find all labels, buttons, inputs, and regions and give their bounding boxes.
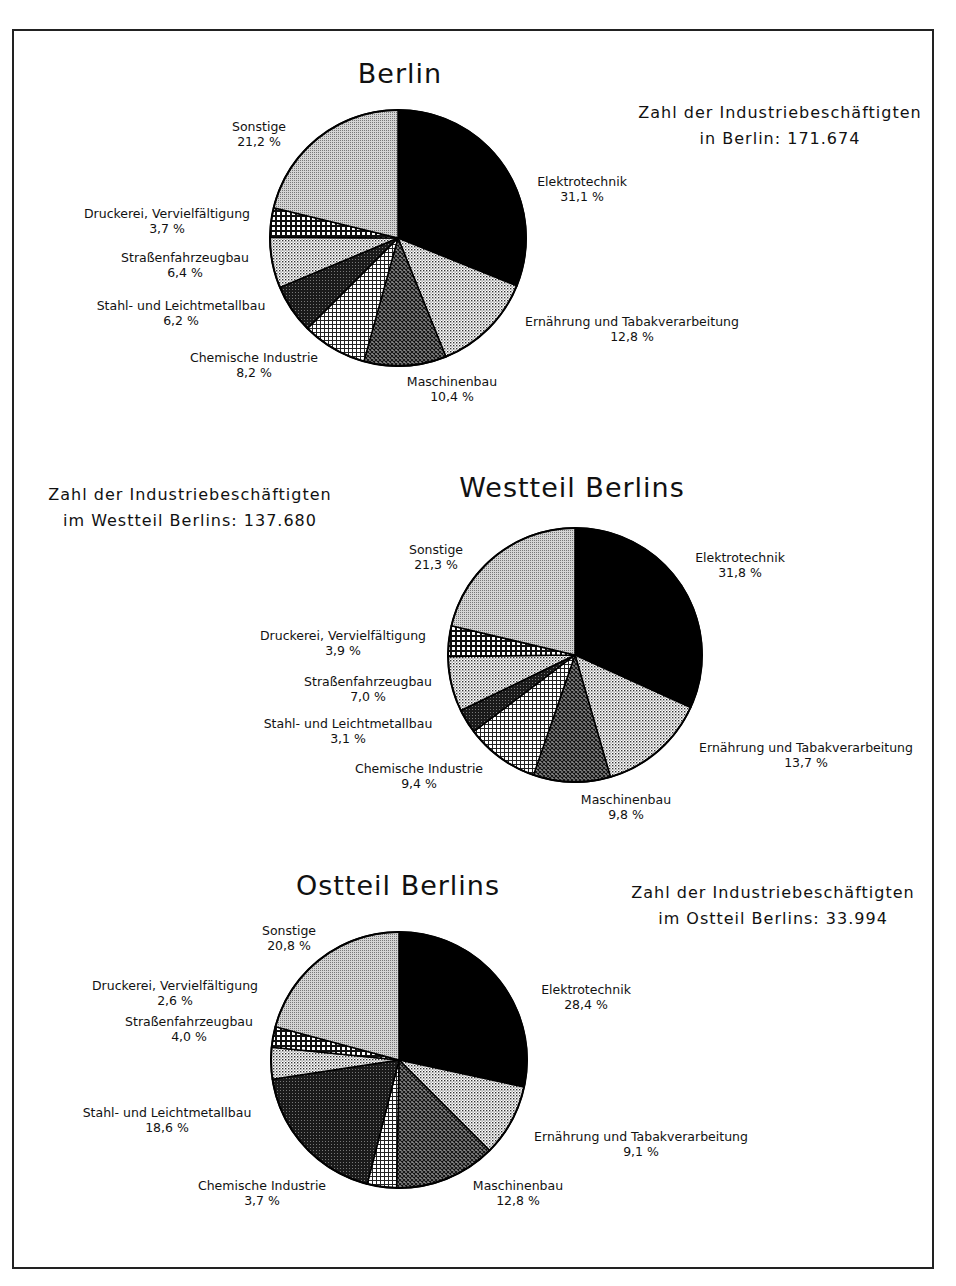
slice-label-ernaehrung-und-tabakverarbeitung: Ernährung und Tabakverarbeitung9,1 % — [534, 1129, 748, 1159]
slice-label-name: Sonstige — [409, 542, 463, 557]
pie-berlin — [270, 110, 526, 366]
slice-label-name: Maschinenbau — [581, 792, 671, 807]
slice-label-sonstige: Sonstige21,2 % — [232, 119, 286, 149]
slice-label-druckerei-vervielfaeltigung: Druckerei, Vervielfältigung2,6 % — [92, 978, 258, 1008]
slice-label-name: Ernährung und Tabakverarbeitung — [534, 1129, 748, 1144]
employee-total-value: im Westteil Berlins: 137.680 — [48, 508, 331, 534]
slice-label-name: Chemische Industrie — [198, 1178, 326, 1193]
chart-title: Ostteil Berlins — [296, 870, 500, 901]
slice-label-value: 6,2 % — [97, 313, 266, 328]
slice-label-name: Chemische Industrie — [190, 350, 318, 365]
slice-label-value: 9,8 % — [581, 807, 671, 822]
slice-label-ernaehrung-und-tabakverarbeitung: Ernährung und Tabakverarbeitung13,7 % — [699, 740, 913, 770]
slice-label-value: 21,3 % — [409, 557, 463, 572]
slice-label-value: 4,0 % — [125, 1029, 253, 1044]
slice-label-value: 12,8 % — [473, 1193, 563, 1208]
pie-ostteil-berlins — [271, 932, 527, 1188]
slice-label-sonstige: Sonstige20,8 % — [262, 923, 316, 953]
employee-total-value: in Berlin: 171.674 — [638, 126, 921, 152]
slice-label-value: 7,0 % — [304, 689, 432, 704]
slice-label-value: 18,6 % — [83, 1120, 252, 1135]
slice-label-maschinenbau: Maschinenbau10,4 % — [407, 374, 497, 404]
employee-total-label: Zahl der Industriebeschäftigten — [48, 482, 331, 508]
slice-label-value: 8,2 % — [190, 365, 318, 380]
slice-label-name: Elektrotechnik — [537, 174, 627, 189]
employee-total: Zahl der Industriebeschäftigtenin Berlin… — [638, 100, 921, 152]
slice-label-name: Sonstige — [262, 923, 316, 938]
slice-label-value: 20,8 % — [262, 938, 316, 953]
slice-label-value: 3,9 % — [260, 643, 426, 658]
slice-label-name: Straßenfahrzeugbau — [121, 250, 249, 265]
slice-label-value: 3,7 % — [198, 1193, 326, 1208]
slice-label-value: 12,8 % — [525, 329, 739, 344]
slice-label-maschinenbau: Maschinenbau12,8 % — [473, 1178, 563, 1208]
chart-title: Berlin — [358, 58, 442, 89]
slice-label-name: Elektrotechnik — [541, 982, 631, 997]
employee-total-value: im Ostteil Berlins: 33.994 — [631, 906, 914, 932]
slice-label-name: Straßenfahrzeugbau — [125, 1014, 253, 1029]
slice-label-value: 6,4 % — [121, 265, 249, 280]
slice-label-strassenfahrzeugbau: Straßenfahrzeugbau4,0 % — [125, 1014, 253, 1044]
slice-label-value: 28,4 % — [541, 997, 631, 1012]
slice-label-name: Chemische Industrie — [355, 761, 483, 776]
slice-label-name: Straßenfahrzeugbau — [304, 674, 432, 689]
slice-label-stahl-und-leichtmetallbau: Stahl- und Leichtmetallbau3,1 % — [264, 716, 433, 746]
slice-label-value: 9,4 % — [355, 776, 483, 791]
slice-label-name: Stahl- und Leichtmetallbau — [97, 298, 266, 313]
slice-label-elektrotechnik: Elektrotechnik28,4 % — [541, 982, 631, 1012]
slice-label-value: 2,6 % — [92, 993, 258, 1008]
slice-label-value: 31,8 % — [695, 565, 785, 580]
slice-label-value: 3,7 % — [84, 221, 250, 236]
employee-total: Zahl der Industriebeschäftigtenim Westte… — [48, 482, 331, 534]
slice-label-value: 13,7 % — [699, 755, 913, 770]
slice-label-stahl-und-leichtmetallbau: Stahl- und Leichtmetallbau18,6 % — [83, 1105, 252, 1135]
slice-label-ernaehrung-und-tabakverarbeitung: Ernährung und Tabakverarbeitung12,8 % — [525, 314, 739, 344]
slice-label-chemische-industrie: Chemische Industrie3,7 % — [198, 1178, 326, 1208]
slice-label-name: Stahl- und Leichtmetallbau — [83, 1105, 252, 1120]
slice-label-name: Ernährung und Tabakverarbeitung — [699, 740, 913, 755]
slice-label-value: 10,4 % — [407, 389, 497, 404]
slice-label-value: 21,2 % — [232, 134, 286, 149]
chart-title: Westteil Berlins — [459, 472, 685, 503]
slice-label-name: Druckerei, Vervielfältigung — [92, 978, 258, 993]
slice-label-value: 31,1 % — [537, 189, 627, 204]
slice-label-sonstige: Sonstige21,3 % — [409, 542, 463, 572]
slice-label-chemische-industrie: Chemische Industrie9,4 % — [355, 761, 483, 791]
slice-label-elektrotechnik: Elektrotechnik31,8 % — [695, 550, 785, 580]
slice-label-name: Maschinenbau — [473, 1178, 563, 1193]
employee-total-label: Zahl der Industriebeschäftigten — [631, 880, 914, 906]
slice-label-name: Druckerei, Vervielfältigung — [260, 628, 426, 643]
pie-westteil-berlins — [448, 528, 702, 782]
slice-label-name: Maschinenbau — [407, 374, 497, 389]
slice-label-maschinenbau: Maschinenbau9,8 % — [581, 792, 671, 822]
slice-label-druckerei-vervielfaeltigung: Druckerei, Vervielfältigung3,9 % — [260, 628, 426, 658]
slice-label-name: Druckerei, Vervielfältigung — [84, 206, 250, 221]
slice-label-chemische-industrie: Chemische Industrie8,2 % — [190, 350, 318, 380]
slice-label-elektrotechnik: Elektrotechnik31,1 % — [537, 174, 627, 204]
slice-label-strassenfahrzeugbau: Straßenfahrzeugbau6,4 % — [121, 250, 249, 280]
slice-label-strassenfahrzeugbau: Straßenfahrzeugbau7,0 % — [304, 674, 432, 704]
slice-label-value: 3,1 % — [264, 731, 433, 746]
slice-label-name: Elektrotechnik — [695, 550, 785, 565]
pie-charts-canvas — [0, 0, 956, 1286]
slice-label-stahl-und-leichtmetallbau: Stahl- und Leichtmetallbau6,2 % — [97, 298, 266, 328]
slice-label-name: Ernährung und Tabakverarbeitung — [525, 314, 739, 329]
slice-label-druckerei-vervielfaeltigung: Druckerei, Vervielfältigung3,7 % — [84, 206, 250, 236]
employee-total-label: Zahl der Industriebeschäftigten — [638, 100, 921, 126]
employee-total: Zahl der Industriebeschäftigtenim Osttei… — [631, 880, 914, 932]
slice-label-value: 9,1 % — [534, 1144, 748, 1159]
slice-label-name: Sonstige — [232, 119, 286, 134]
slice-label-name: Stahl- und Leichtmetallbau — [264, 716, 433, 731]
